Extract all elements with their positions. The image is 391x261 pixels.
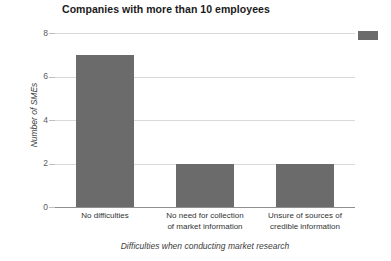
x-axis-category-label-line: of market information [156,222,254,233]
bar [276,164,334,208]
x-axis-category-label: No difficulties [55,211,155,237]
y-axis-tick-mark [49,33,55,34]
y-axis-tick-labels: 02468 [28,33,48,207]
x-axis-title: Difficulties when conducting market rese… [55,241,355,251]
bar [176,164,234,208]
y-axis-tick-mark [49,77,55,78]
x-axis-line [49,207,355,208]
y-axis-tick-label: 0 [28,203,48,212]
gridline [55,33,355,34]
x-axis-category-labels: No difficultiesNo need for collectionof … [55,211,355,237]
x-axis-category-label-line: No need for collection [156,211,254,222]
legend [357,30,379,41]
x-axis-category-label-line: Unsure of sources of [256,211,354,222]
y-axis-tick-label: 6 [28,72,48,81]
y-axis-tick-label: 2 [28,159,48,168]
legend-swatch-series-1 [357,30,379,41]
y-axis-tick-label: 4 [28,116,48,125]
x-axis-category-label-line: No difficulties [56,211,154,222]
y-axis-tick-label: 8 [28,29,48,38]
bar [76,55,134,207]
y-axis-tick-mark [49,164,55,165]
plot-area [55,33,355,207]
x-axis-category-label: No need for collectionof market informat… [155,211,255,237]
x-axis-category-label-line: credible information [256,222,354,233]
y-axis-tick-mark [49,120,55,121]
chart-title: Companies with more than 10 employees [62,3,270,15]
bar-chart: Companies with more than 10 employees Nu… [0,0,391,261]
x-axis-category-label: Unsure of sources ofcredible information [255,211,355,237]
y-axis-tick-mark [49,207,55,208]
